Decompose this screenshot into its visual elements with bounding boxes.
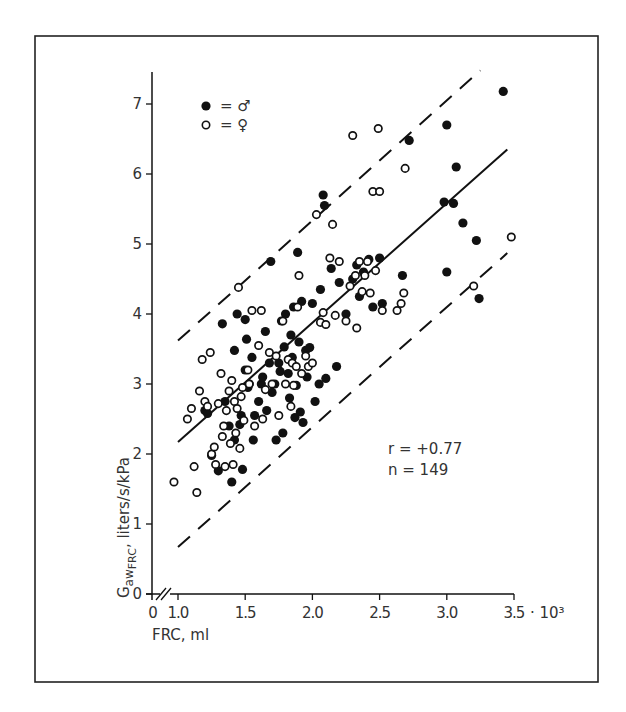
- female-point: [258, 307, 265, 314]
- female-point: [294, 303, 301, 310]
- female-point: [275, 412, 282, 419]
- female-point: [220, 422, 227, 429]
- male-point: [327, 264, 336, 273]
- male-point: [320, 201, 329, 210]
- male-point: [305, 343, 314, 352]
- male-point: [310, 397, 319, 406]
- male-point: [262, 406, 271, 415]
- legend-open-marker: [202, 121, 209, 128]
- female-point: [336, 258, 343, 265]
- x-tick-label: 2.5: [369, 604, 390, 622]
- male-point: [442, 267, 451, 276]
- female-point: [361, 272, 368, 279]
- x-origin-label: 0: [148, 604, 158, 622]
- female-point: [188, 405, 195, 412]
- female-point: [346, 282, 353, 289]
- male-point: [294, 337, 303, 346]
- female-point: [372, 267, 379, 274]
- female-point: [272, 352, 279, 359]
- male-point: [499, 87, 508, 96]
- male-point: [241, 315, 250, 324]
- x-tick-label: 1.5: [235, 604, 256, 622]
- female-point: [364, 258, 371, 265]
- y-tick-label: 1: [132, 515, 142, 533]
- y-tick-label: 7: [132, 95, 142, 113]
- axes: 012345671.01.52.02.53.03.50· 10³: [132, 72, 564, 622]
- female-point: [309, 359, 316, 366]
- male-point: [472, 236, 481, 245]
- female-point: [196, 387, 203, 394]
- male-point: [440, 197, 449, 206]
- male-point: [280, 342, 289, 351]
- annotations: r = +0.77n = 149: [388, 440, 462, 479]
- female-point: [236, 445, 243, 452]
- female-point: [229, 461, 236, 468]
- female-point: [401, 165, 408, 172]
- legend-male-label: = ♂: [220, 97, 251, 115]
- female-point: [279, 317, 286, 324]
- legend-female-label: = ♀: [220, 116, 248, 134]
- male-point: [319, 190, 328, 199]
- y-tick-label: 6: [132, 165, 142, 183]
- female-point: [244, 366, 251, 373]
- female-point: [397, 300, 404, 307]
- female-point: [358, 288, 365, 295]
- female-point: [287, 403, 294, 410]
- male-point: [218, 319, 227, 328]
- male-point: [368, 302, 377, 311]
- female-point: [233, 405, 240, 412]
- male-point: [335, 278, 344, 287]
- legend-filled-marker: [201, 101, 210, 110]
- male-point: [316, 285, 325, 294]
- male-point: [249, 435, 258, 444]
- female-point: [215, 400, 222, 407]
- female-point: [207, 349, 214, 356]
- female-point: [332, 312, 339, 319]
- male-point: [293, 248, 302, 257]
- axis-break-icon: [161, 588, 171, 600]
- male-point: [266, 257, 275, 266]
- male-point: [321, 374, 330, 383]
- female-point: [223, 407, 230, 414]
- female-point: [184, 415, 191, 422]
- female-point: [190, 463, 197, 470]
- scatter-chart: 012345671.01.52.02.53.03.50· 10³ = ♂= ♀ …: [0, 0, 626, 712]
- chart-frame: [35, 36, 598, 682]
- r-value: r = +0.77: [388, 440, 462, 458]
- male-point: [286, 330, 295, 339]
- female-point: [232, 429, 239, 436]
- female-point: [470, 282, 477, 289]
- male-point: [449, 199, 458, 208]
- male-point: [458, 218, 467, 227]
- female-point: [342, 317, 349, 324]
- female-point: [217, 370, 224, 377]
- female-point: [219, 433, 226, 440]
- male-point: [405, 136, 414, 145]
- male-point: [230, 346, 239, 355]
- male-point: [298, 418, 307, 427]
- male-point: [276, 367, 285, 376]
- female-point: [508, 233, 515, 240]
- female-point: [259, 415, 266, 422]
- male-point: [278, 428, 287, 437]
- female-point: [225, 387, 232, 394]
- female-point: [227, 440, 234, 447]
- female-point: [329, 221, 336, 228]
- x-tick-label: 1.0: [168, 604, 189, 622]
- female-point: [366, 289, 373, 296]
- male-point: [375, 253, 384, 262]
- female-point: [221, 463, 228, 470]
- female-point: [211, 443, 218, 450]
- male-point: [452, 162, 461, 171]
- female-point: [376, 188, 383, 195]
- female-point: [290, 382, 297, 389]
- x-multiplier: · 10³: [530, 604, 565, 622]
- female-point: [326, 254, 333, 261]
- female-point: [228, 377, 235, 384]
- male-point: [247, 353, 256, 362]
- female-point: [352, 272, 359, 279]
- male-point: [233, 309, 242, 318]
- male-point: [442, 120, 451, 129]
- female-point: [319, 309, 326, 316]
- female-point: [353, 324, 360, 331]
